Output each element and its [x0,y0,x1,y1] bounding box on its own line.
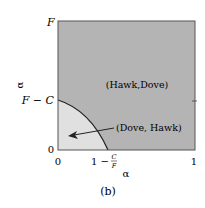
y-tick-0: 0 [48,144,54,155]
x-tick-1: 1 [191,156,197,167]
label-dove-hawk: (Dove, Hawk) [116,122,182,133]
x-axis-label: α [123,168,130,179]
x-tick-C-numerator: C [112,153,117,161]
y-tick-F: F [46,16,55,29]
y-tick-F-minus-C: F − C [21,94,55,107]
label-hawk-dove: (Hawk,Dove) [106,79,169,90]
x-tick-F-denominator: F [111,162,117,170]
x-tick-0: 0 [55,156,61,167]
figure-caption: (b) [100,185,116,198]
x-tick-1-minus-C-over-F-prefix: 1 − [91,156,109,167]
figure-plot: F F − C 0 α 0 1 − C F 1 α (Hawk,Dove) (D… [0,0,205,208]
y-axis-label: α [14,81,25,88]
